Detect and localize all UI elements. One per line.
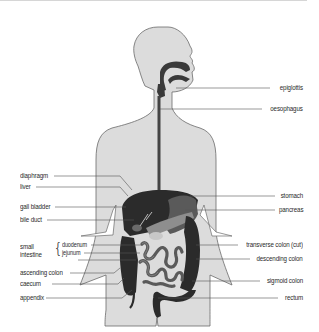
label-ascending-colon: ascending colon <box>20 269 63 277</box>
label-small-intestine-line2: intestine <box>20 251 42 259</box>
label-transverse-colon: transverse colon (cut) <box>246 241 303 249</box>
brace-icon: { <box>55 241 61 256</box>
label-caecum: caecum <box>20 280 41 288</box>
label-descending-colon: descending colon <box>257 255 303 263</box>
label-oesophagus: oesophagus <box>271 105 303 113</box>
digestive-system-diagram: epiglottis oesophagus stomach pancreas t… <box>0 0 319 332</box>
duodenum-pale <box>149 232 163 240</box>
label-jejunum: jejunum <box>62 249 80 257</box>
label-epiglottis: epiglottis <box>280 84 303 92</box>
label-stomach: stomach <box>281 192 303 200</box>
label-pancreas: pancreas <box>279 206 303 214</box>
label-gall-bladder: gall bladder <box>20 203 50 211</box>
label-bile-duct: bile duct <box>20 216 42 224</box>
label-rectum: rectum <box>285 294 303 302</box>
label-duodenum: duodenum <box>62 241 87 249</box>
label-appendix: appendix <box>20 294 44 302</box>
label-sigmoid-colon: sigmoid colon <box>267 277 303 285</box>
label-liver: liver <box>20 183 31 191</box>
label-diaphragm: diaphragm <box>20 172 48 180</box>
